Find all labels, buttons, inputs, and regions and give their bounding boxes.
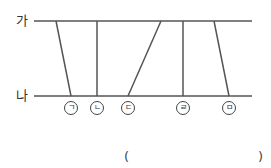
segment-5 (214, 21, 229, 96)
segment-label-5: ㅁ (222, 101, 236, 115)
answer-open-paren: ( (124, 149, 129, 164)
line-ga-label: 가 (16, 14, 28, 27)
segment-label-3: ㄷ (121, 101, 135, 115)
segment-label-4: ㄹ (176, 101, 190, 115)
parallel-lines-diagram (0, 0, 271, 168)
segment-3 (128, 21, 161, 96)
segment-label-1: ㄱ (64, 101, 78, 115)
segment-label-2: ㄴ (90, 101, 104, 115)
segment-1 (56, 21, 71, 96)
line-na-label: 나 (16, 89, 28, 102)
answer-close-paren: ) (258, 149, 263, 164)
